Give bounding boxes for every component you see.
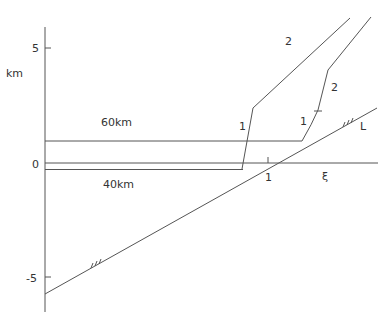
curve-right-label-1: 1 bbox=[300, 115, 307, 128]
line-L-label: L bbox=[360, 120, 367, 133]
y-unit-label: km bbox=[6, 67, 23, 80]
line-L bbox=[45, 108, 377, 294]
y-tick-label-neg5: -5 bbox=[26, 272, 37, 285]
x-tick-label-1: 1 bbox=[265, 171, 272, 184]
layer-40km-label: 40km bbox=[103, 178, 134, 191]
xi-axis-label: ξ bbox=[322, 170, 328, 183]
y-tick-label-5: 5 bbox=[32, 42, 39, 55]
layer-60km-label: 60km bbox=[101, 116, 132, 129]
y-tick-label-0: 0 bbox=[32, 158, 39, 171]
curve-left-label-1: 1 bbox=[239, 120, 246, 133]
hatch-marks-lower bbox=[91, 259, 101, 268]
diagram-canvas: 5 km 0 -5 60km 40km 1 ξ L 1 2 1 2 bbox=[0, 0, 391, 317]
curve-left-label-2: 2 bbox=[285, 35, 292, 48]
curve-right-label-2: 2 bbox=[331, 81, 338, 94]
